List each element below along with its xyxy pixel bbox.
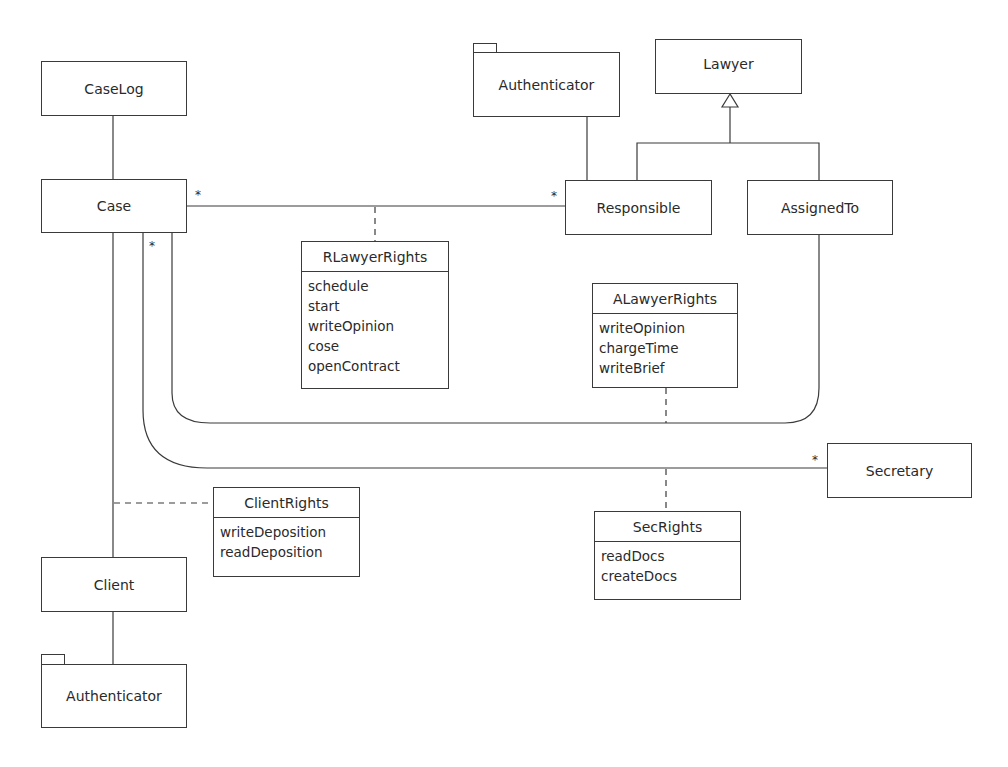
class-assignedto[interactable]: AssignedTo xyxy=(747,180,893,235)
assoc-class-rlawyerrights-title: RLawyerRights xyxy=(302,242,448,272)
package-authenticator-top-label: Authenticator xyxy=(499,77,595,93)
operation-item: readDocs xyxy=(601,546,734,566)
class-caselog[interactable]: CaseLog xyxy=(41,61,187,116)
assoc-class-clientrights-operations: writeDeposition readDeposition xyxy=(214,518,359,566)
class-client[interactable]: Client xyxy=(41,557,187,612)
assoc-class-clientrights[interactable]: ClientRights writeDeposition readDeposit… xyxy=(213,487,360,577)
operation-item: start xyxy=(308,296,442,316)
operation-item: writeOpinion xyxy=(308,316,442,336)
package-authenticator-top[interactable]: Authenticator xyxy=(473,52,620,117)
multiplicity-case-responsible-responsible-end: * xyxy=(551,190,557,202)
operation-item: schedule xyxy=(308,276,442,296)
assoc-class-secrights[interactable]: SecRights readDocs createDocs xyxy=(594,511,741,600)
class-secretary-label: Secretary xyxy=(866,463,933,479)
class-assignedto-label: AssignedTo xyxy=(781,200,859,216)
generalization-branch xyxy=(637,143,819,180)
multiplicity-case-secretary-secretary-end: * xyxy=(812,454,818,466)
operation-item: writeBrief xyxy=(599,358,731,378)
class-responsible[interactable]: Responsible xyxy=(565,180,712,235)
class-secretary[interactable]: Secretary xyxy=(827,443,972,498)
class-responsible-label: Responsible xyxy=(597,200,681,216)
package-authenticator-bottom[interactable]: Authenticator xyxy=(41,664,187,728)
operation-item: cose xyxy=(308,336,442,356)
assoc-class-alawyerrights-title: ALawyerRights xyxy=(593,284,737,314)
operation-item: chargeTime xyxy=(599,338,731,358)
operation-item: writeOpinion xyxy=(599,318,731,338)
operation-item: writeDeposition xyxy=(220,522,353,542)
class-client-label: Client xyxy=(94,577,135,593)
operation-item: readDeposition xyxy=(220,542,353,562)
operation-item: openContract xyxy=(308,356,442,376)
assoc-class-secrights-operations: readDocs createDocs xyxy=(595,542,740,590)
assoc-class-alawyerrights-operations: writeOpinion chargeTime writeBrief xyxy=(593,314,737,382)
multiplicity-case-assigned-case-end: * xyxy=(149,240,155,252)
assoc-class-alawyerrights[interactable]: ALawyerRights writeOpinion chargeTime wr… xyxy=(592,283,738,388)
assoc-class-rlawyerrights[interactable]: RLawyerRights schedule start writeOpinio… xyxy=(301,241,449,389)
generalization-triangle-icon xyxy=(722,94,738,107)
class-lawyer[interactable]: Lawyer xyxy=(655,39,802,94)
class-case-label: Case xyxy=(97,198,131,214)
class-caselog-label: CaseLog xyxy=(84,81,143,97)
class-lawyer-label: Lawyer xyxy=(703,56,753,72)
operation-item: createDocs xyxy=(601,566,734,586)
assoc-class-clientrights-title: ClientRights xyxy=(214,488,359,518)
multiplicity-case-responsible-case-end: * xyxy=(195,189,201,201)
package-authenticator-bottom-label: Authenticator xyxy=(66,688,162,704)
class-case[interactable]: Case xyxy=(41,179,187,233)
assoc-class-secrights-title: SecRights xyxy=(595,512,740,542)
assoc-class-rlawyerrights-operations: schedule start writeOpinion cose openCon… xyxy=(302,272,448,380)
